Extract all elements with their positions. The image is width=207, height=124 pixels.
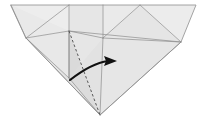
face-left-wing-upper: [26, 31, 69, 78]
origami-figure-canvas: [0, 0, 207, 124]
origami-diagram: [0, 0, 207, 124]
paper-faces-group: [11, 5, 196, 115]
